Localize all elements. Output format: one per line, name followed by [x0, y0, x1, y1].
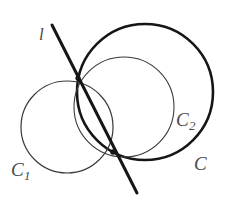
- circle-C2-path: [74, 57, 174, 157]
- circle-label-c1: C1: [11, 160, 30, 179]
- circle-label-c2-base: C: [176, 109, 189, 130]
- line-label-l: l: [39, 26, 44, 43]
- figure-canvas: [0, 0, 246, 208]
- circle-C1-path: [21, 81, 113, 173]
- circle-label-c1-subscript: 1: [24, 168, 30, 183]
- circle-label-c2-subscript: 2: [189, 118, 195, 133]
- line-l-path: [52, 25, 137, 193]
- lower-node-marker: [110, 149, 116, 155]
- circle-label-c: C: [194, 154, 207, 173]
- geometry-figure: l C1 C2 C: [0, 0, 246, 208]
- circle-label-c1-base: C: [11, 159, 24, 180]
- circle-label-c2: C2: [176, 110, 195, 129]
- upper-node-marker: [75, 75, 80, 80]
